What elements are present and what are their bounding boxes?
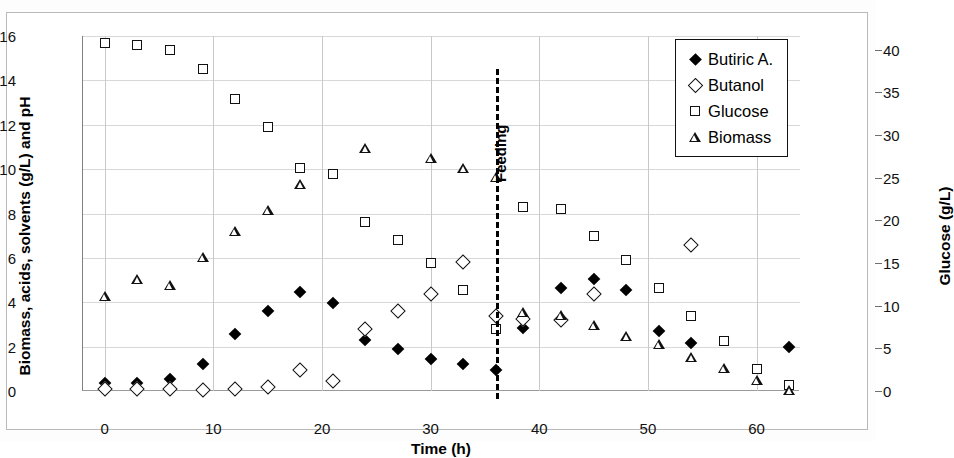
data-point-glucose xyxy=(719,336,729,346)
y-axis-right-tick-mark xyxy=(875,50,882,51)
y-axis-left-tick-label: 0 xyxy=(0,383,16,400)
y-axis-right-tick-mark xyxy=(875,92,882,93)
data-point-butiric-a xyxy=(229,328,242,341)
filled-diamond-icon xyxy=(689,53,702,66)
data-point-biomass xyxy=(620,331,632,341)
figure-frame: 0246810121416 0510152025303540 010203040… xyxy=(6,12,868,430)
y-axis-right-tick-label: 20 xyxy=(883,212,923,229)
data-point-glucose xyxy=(458,285,468,295)
legend-marker-icon xyxy=(686,106,704,116)
x-axis-tick-label: 20 xyxy=(314,420,331,437)
gridline-horizontal xyxy=(83,258,800,259)
legend-item-label: Butiric A. xyxy=(708,50,773,69)
y-axis-left-tick-label: 4 xyxy=(0,294,16,311)
y-axis-left-tick-label: 2 xyxy=(0,338,16,355)
data-point-glucose xyxy=(132,40,142,50)
legend-item-butanol[interactable]: Butanol xyxy=(686,72,773,98)
y-axis-right-tick-mark xyxy=(875,135,882,136)
data-point-butanol xyxy=(260,379,276,395)
gridline-horizontal xyxy=(83,36,800,37)
data-point-butiric-a xyxy=(424,352,437,365)
gridline-horizontal xyxy=(83,214,800,215)
data-point-glucose xyxy=(556,204,566,214)
data-point-biomass xyxy=(425,153,437,163)
y-axis-left-tick-label: 14 xyxy=(0,72,16,89)
data-point-biomass xyxy=(783,385,795,395)
data-point-biomass xyxy=(164,280,176,290)
data-point-butiric-a xyxy=(555,281,568,294)
legend-item-label: Butanol xyxy=(708,76,764,95)
x-axis-tick-label: 40 xyxy=(531,420,548,437)
x-axis-tick-label: 50 xyxy=(640,420,657,437)
data-point-butiric-a xyxy=(685,337,698,350)
y-axis-left-tick-label: 6 xyxy=(0,249,16,266)
data-point-biomass xyxy=(588,320,600,330)
y-axis-left-tick-label: 16 xyxy=(0,28,16,45)
data-point-butanol xyxy=(358,321,374,337)
y-axis-right-tick-mark xyxy=(875,306,882,307)
data-point-butanol xyxy=(195,382,211,398)
data-point-glucose xyxy=(263,122,273,132)
data-point-biomass xyxy=(99,291,111,301)
legend-item-biomass[interactable]: Biomass xyxy=(686,124,773,150)
data-point-butanol xyxy=(227,381,243,397)
legend-marker-icon xyxy=(686,55,704,64)
data-point-glucose xyxy=(328,169,338,179)
data-point-glucose xyxy=(198,64,208,74)
y-axis-right-tick-mark xyxy=(875,178,882,179)
data-point-biomass xyxy=(197,252,209,262)
data-point-glucose xyxy=(426,258,436,268)
x-axis-tick-label: 0 xyxy=(101,420,109,437)
data-point-butiric-a xyxy=(294,286,307,299)
data-point-glucose xyxy=(165,45,175,55)
data-point-biomass xyxy=(555,310,567,320)
x-axis-label: Time (h) xyxy=(411,440,471,458)
data-point-biomass xyxy=(751,375,763,385)
y-axis-left-tick-label: 8 xyxy=(0,205,16,222)
gridline-vertical xyxy=(539,36,540,391)
y-axis-right-tick-label: 40 xyxy=(883,41,923,58)
data-point-biomass xyxy=(262,205,274,215)
data-point-butiric-a xyxy=(620,284,633,297)
gridline-horizontal xyxy=(83,302,800,303)
legend-item-glucose[interactable]: Glucose xyxy=(686,98,773,124)
x-axis-tick-label: 30 xyxy=(422,420,439,437)
data-point-glucose xyxy=(360,217,370,227)
y-axis-right-tick-mark xyxy=(875,391,882,392)
open-diamond-icon xyxy=(687,77,703,93)
feeding-line xyxy=(496,69,499,399)
data-point-glucose xyxy=(686,311,696,321)
legend-marker-icon xyxy=(686,132,704,142)
data-point-glucose xyxy=(100,38,110,48)
data-point-butiric-a xyxy=(652,325,665,338)
data-point-biomass xyxy=(685,352,697,362)
legend-item-butiric-a[interactable]: Butiric A. xyxy=(686,46,773,72)
x-axis-tick-label: 60 xyxy=(748,420,765,437)
y-axis-left-tick-label: 10 xyxy=(0,161,16,178)
gridline-vertical xyxy=(105,36,106,391)
gridline-horizontal xyxy=(83,169,800,170)
data-point-biomass xyxy=(457,163,469,173)
chart-legend: Butiric A.ButanolGlucoseBiomass xyxy=(675,39,788,157)
data-point-butanol xyxy=(684,237,700,253)
data-point-butiric-a xyxy=(457,358,470,371)
data-point-butiric-a xyxy=(196,358,209,371)
data-point-glucose xyxy=(621,255,631,265)
data-point-butanol xyxy=(455,255,471,271)
data-point-glucose xyxy=(654,283,664,293)
legend-item-label: Glucose xyxy=(708,102,769,121)
y-axis-right-tick-label: 30 xyxy=(883,126,923,143)
data-point-biomass xyxy=(131,274,143,284)
data-point-biomass xyxy=(229,226,241,236)
y-axis-right-tick-label: 15 xyxy=(883,254,923,271)
data-point-glucose xyxy=(518,202,528,212)
open-square-icon xyxy=(690,106,700,116)
data-point-butiric-a xyxy=(392,342,405,355)
gridline-vertical xyxy=(431,36,432,391)
data-point-glucose xyxy=(230,94,240,104)
y-axis-right-tick-mark xyxy=(875,348,882,349)
data-point-butanol xyxy=(586,287,602,303)
data-point-butiric-a xyxy=(261,305,274,318)
y-axis-left-tick-label: 12 xyxy=(0,116,16,133)
y-axis-right-tick-mark xyxy=(875,220,882,221)
